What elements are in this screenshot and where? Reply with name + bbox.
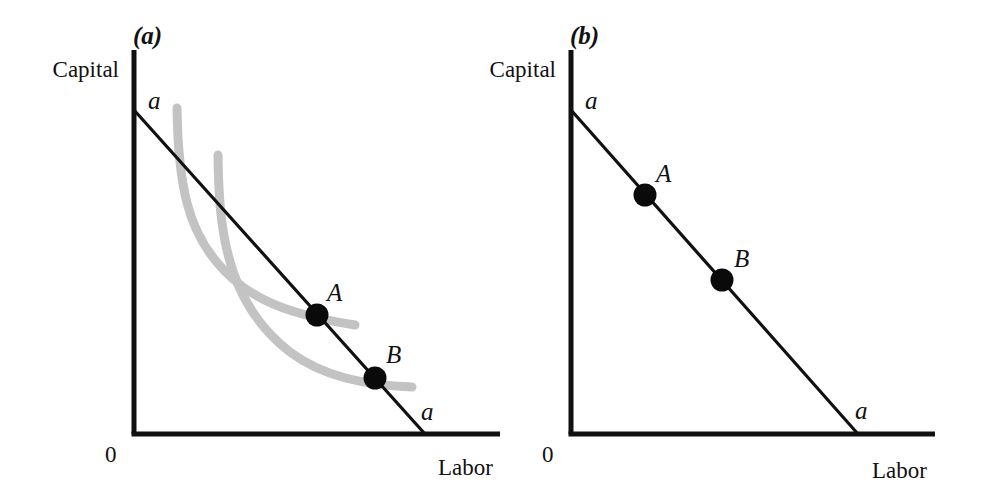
economics-diagram-canvas: (a) Capital Labor 0 a a A B (b) Capital … (0, 0, 981, 497)
panel-a-isoquant-lower (218, 155, 412, 387)
panel-b-isocost-bottom-label: a (855, 397, 868, 424)
panel-a-isocost-top-label: a (148, 87, 161, 114)
panel-a-origin-label: 0 (105, 442, 117, 467)
panel-a-caption: (a) (133, 22, 162, 50)
figure-root: (a) Capital Labor 0 a a A B (b) Capital … (0, 0, 981, 497)
panel-a-group: (a) Capital Labor 0 a a A B (53, 22, 500, 480)
panel-b-point-b-label: B (734, 245, 749, 272)
panel-b-point-a-label: A (654, 160, 672, 187)
panel-a-point-a-dot (306, 304, 329, 327)
panel-b-capital-axis-label: Capital (490, 57, 556, 82)
panel-a-point-b-dot (364, 367, 387, 390)
panel-a-labor-axis-label: Labor (438, 455, 493, 480)
panel-b-caption: (b) (570, 22, 599, 50)
panel-b-labor-axis-label: Labor (872, 458, 927, 483)
panel-b-isocost-top-label: a (585, 87, 598, 114)
panel-a-point-a-label: A (325, 279, 343, 306)
panel-b-point-a-dot (634, 184, 657, 207)
panel-a-isocost-bottom-label: a (421, 398, 434, 425)
panel-b-point-b-dot (711, 269, 734, 292)
panel-b-group: (b) Capital Labor 0 a a A B (490, 22, 935, 483)
panel-a-point-b-label: B (386, 341, 401, 368)
panel-b-origin-label: 0 (542, 442, 554, 467)
panel-a-capital-axis-label: Capital (53, 57, 119, 82)
